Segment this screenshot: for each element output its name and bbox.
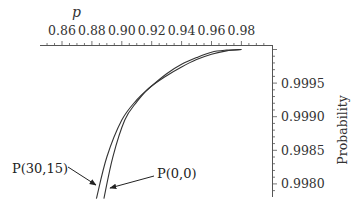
y-tick-label: 0.9995 [281, 76, 325, 91]
y-tick-label: 0.9990 [281, 109, 325, 124]
annotation-arrow-p0-0 [110, 176, 154, 188]
x-tick-label: 0.96 [198, 23, 226, 38]
annotation-arrow-p30-15 [68, 167, 96, 185]
x-tick-label: 0.92 [138, 23, 166, 38]
x-tick-label: 0.94 [168, 23, 196, 38]
annotation-p0-0: P(0,0) [157, 166, 197, 181]
x-tick-label: 0.86 [48, 23, 76, 38]
x-tick-label: 0.98 [227, 23, 255, 38]
x-axis-title: p [72, 4, 81, 20]
y-tick-label: 0.9980 [281, 176, 325, 191]
x-tick-label: 0.88 [78, 23, 106, 38]
x-axis-ticks [47, 41, 264, 46]
x-axis-tick-labels: 0.860.880.900.920.940.960.98 [48, 23, 255, 38]
annotation-p30-15: P(30,15) [12, 161, 68, 176]
y-axis-ticks [273, 50, 278, 191]
y-axis-title: Probability [335, 94, 350, 164]
y-tick-label: 0.9985 [281, 143, 325, 158]
x-tick-label: 0.90 [108, 23, 136, 38]
y-axis-tick-labels: 0.99950.99900.99850.9980 [281, 76, 325, 192]
probability-chart: 0.860.880.900.920.940.960.98 p 0.99950.9… [0, 0, 351, 202]
